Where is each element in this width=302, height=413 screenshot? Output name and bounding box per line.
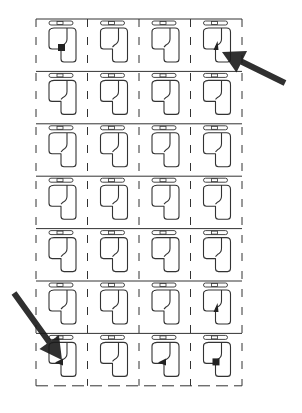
tank-bar-center <box>109 231 115 234</box>
fixture-outline <box>152 80 179 114</box>
arrow-top-right-icon <box>222 51 286 86</box>
fixture-cell <box>49 126 76 167</box>
cells <box>49 21 231 376</box>
fixture-outline <box>152 28 179 62</box>
tank-bar-center <box>57 179 63 182</box>
tank-bar-center <box>212 22 218 25</box>
fixture-cell <box>204 126 231 167</box>
fixture-outline <box>152 290 179 324</box>
fixture-outline <box>101 28 128 62</box>
fixture-outline <box>152 185 179 219</box>
tank-bar-center <box>160 74 166 77</box>
tank-bar-center <box>109 126 115 129</box>
fixture-cell <box>49 283 76 324</box>
fixture-outline <box>49 290 76 324</box>
tank-bar-center <box>57 126 63 129</box>
fixture-cell <box>152 126 179 167</box>
tank-bar-center <box>109 179 115 182</box>
fixture-cell <box>204 73 231 114</box>
fixture-outline <box>49 133 76 167</box>
tank-bar-center <box>160 231 166 234</box>
triangle-marker <box>214 303 219 312</box>
fixture-outline <box>101 80 128 114</box>
square-marker <box>213 358 220 365</box>
fixture-cell <box>204 178 231 219</box>
fixture-cell <box>204 231 231 272</box>
square-marker <box>58 44 65 51</box>
fixture-cell <box>152 178 179 219</box>
fixture-cell <box>152 335 179 376</box>
fixture-cell <box>152 21 179 62</box>
fixture-outline <box>204 185 231 219</box>
fixture-cell <box>152 73 179 114</box>
fixture-outline <box>204 80 231 114</box>
fixture-outline <box>101 290 128 324</box>
fixture-cell <box>101 335 128 376</box>
tank-bar-center <box>212 179 218 182</box>
markers <box>55 41 220 365</box>
tank-bar-center <box>57 74 63 77</box>
tank-bar-center <box>109 284 115 287</box>
fixture-cell <box>101 21 128 62</box>
fixture-cell <box>49 231 76 272</box>
fixture-outline <box>49 185 76 219</box>
tank-bar-center <box>109 74 115 77</box>
tank-bar-center <box>57 284 63 287</box>
cell-grid-diagram <box>0 0 302 413</box>
fixture-outline <box>101 185 128 219</box>
tank-bar-center <box>160 336 166 339</box>
fixture-cell <box>152 231 179 272</box>
fixture-cell <box>49 21 76 62</box>
tank-bar-center <box>57 22 63 25</box>
tank-bar-center <box>212 74 218 77</box>
tank-bar-center <box>212 284 218 287</box>
fixture-cell <box>101 126 128 167</box>
fixture-outline <box>204 238 231 272</box>
triangle-marker <box>214 41 219 50</box>
arrows <box>12 51 287 360</box>
fixture-outline <box>152 133 179 167</box>
fixture-cell <box>204 283 231 324</box>
fixture-cell <box>101 73 128 114</box>
fixture-cell <box>204 335 231 376</box>
tank-bar-center <box>160 126 166 129</box>
fixture-cell <box>101 283 128 324</box>
fixture-outline <box>101 342 128 376</box>
tank-bar-center <box>160 22 166 25</box>
tank-bar-center <box>212 126 218 129</box>
fixture-cell <box>152 283 179 324</box>
tank-bar-center <box>160 179 166 182</box>
fixture-cell <box>101 178 128 219</box>
fixture-cell <box>49 73 76 114</box>
arrow-bottom-left-icon <box>12 291 62 360</box>
fixture-outline <box>49 80 76 114</box>
fixture-outline <box>101 133 128 167</box>
fixture-outline <box>152 238 179 272</box>
fixture-outline <box>101 238 128 272</box>
tank-bar-center <box>160 284 166 287</box>
tank-bar-center <box>212 336 218 339</box>
tank-bar-center <box>212 231 218 234</box>
tank-bar-center <box>109 336 115 339</box>
fixture-cell <box>49 178 76 219</box>
fixture-cell <box>101 231 128 272</box>
triangle-marker <box>158 358 166 365</box>
tank-bar-center <box>109 22 115 25</box>
tank-bar-center <box>57 231 63 234</box>
fixture-outline <box>204 133 231 167</box>
fixture-outline <box>49 238 76 272</box>
